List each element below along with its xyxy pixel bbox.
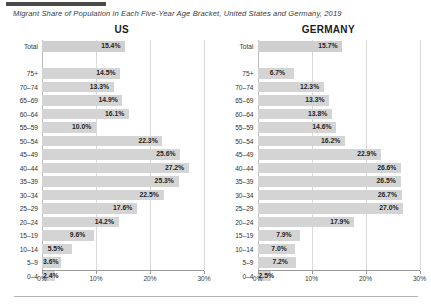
- bar-value-label: 25.3%: [155, 176, 174, 187]
- bar-row: 5–93.6%: [0, 256, 216, 270]
- bar-zone: 14.6%: [258, 122, 420, 133]
- panel-title-germany: GERMANY: [216, 24, 431, 35]
- bar-zone: 22.9%: [258, 149, 420, 160]
- category-label: 75+: [0, 67, 38, 81]
- category-label: 70–74: [216, 81, 254, 95]
- bar-value-label: 26.5%: [377, 176, 396, 187]
- category-label: Total: [0, 40, 38, 54]
- bar-zone: 27.2%: [42, 163, 204, 174]
- bottom-rule-decoration: [14, 296, 418, 297]
- axis-tick-mark: [258, 271, 259, 274]
- bar-zone: 15.4%: [42, 41, 204, 52]
- category-label: 50–54: [0, 135, 38, 149]
- category-label: 5–9: [216, 256, 254, 270]
- bar-value-label: 3.6%: [43, 257, 59, 268]
- bar-zone: 7.2%: [258, 257, 420, 268]
- category-label: Total: [216, 40, 254, 54]
- bar-zone: 7.0%: [258, 244, 420, 255]
- axis-tick-mark: [420, 271, 421, 274]
- bar-row: 40–4427.2%: [0, 162, 216, 176]
- category-label: 45–49: [216, 148, 254, 162]
- bar-row: 15–197.9%: [216, 229, 431, 243]
- chart-page: Migrant Share of Population in Each Five…: [0, 0, 431, 306]
- bar-value-label: 10.0%: [72, 122, 91, 133]
- bar[interactable]: [42, 230, 94, 241]
- bar-row-spacer: [0, 54, 216, 68]
- bar-zone: 6.7%: [258, 68, 420, 79]
- bar-rows-us: Total15.4%75+14.5%70–7413.3%65–6914.9%60…: [0, 40, 216, 270]
- axis-tick-mark: [312, 271, 313, 274]
- bar-zone: 7.9%: [258, 230, 420, 241]
- bar-row: 40–4426.6%: [216, 162, 431, 176]
- bar-zone: 26.6%: [258, 163, 420, 174]
- bar-row: 5–97.2%: [216, 256, 431, 270]
- bar-value-label: 7.0%: [271, 244, 287, 255]
- category-label: 0–4: [0, 270, 38, 284]
- bar-value-label: 16.1%: [105, 109, 124, 120]
- category-label: 30–34: [0, 189, 38, 203]
- bar-value-label: 14.9%: [98, 95, 117, 106]
- category-label: 40–44: [216, 162, 254, 176]
- bar-value-label: 25.6%: [156, 149, 175, 160]
- bar-value-label: 7.2%: [272, 257, 288, 268]
- bar-row: 65–6914.9%: [0, 94, 216, 108]
- bar-row: 70–7413.3%: [0, 81, 216, 95]
- axis-tick-mark: [42, 271, 43, 274]
- bar-row-spacer: [216, 54, 431, 68]
- bar-zone: 9.6%: [42, 230, 204, 241]
- category-label: 30–34: [216, 189, 254, 203]
- bar-zone: 13.3%: [258, 95, 420, 106]
- axis-tick-mark: [366, 271, 367, 274]
- bar-zone: 22.3%: [42, 136, 204, 147]
- bar-zone: 25.3%: [42, 176, 204, 187]
- bar-row: 25–2927.0%: [216, 202, 431, 216]
- bar-zone: 10.0%: [42, 122, 204, 133]
- bar-row: 30–3426.7%: [216, 189, 431, 203]
- bar-row: 30–3422.5%: [0, 189, 216, 203]
- bar-zone: 26.5%: [258, 176, 420, 187]
- bar-value-label: 15.7%: [318, 41, 337, 52]
- bar-value-label: 12.3%: [300, 82, 319, 93]
- bar-value-label: 22.9%: [357, 149, 376, 160]
- bar-row: 45–4925.6%: [0, 148, 216, 162]
- chart-title: Migrant Share of Population in Each Five…: [13, 9, 423, 18]
- panel-title-us: US: [0, 24, 216, 35]
- bar-row: 15–199.6%: [0, 229, 216, 243]
- bar-value-label: 6.7%: [270, 68, 286, 79]
- panel-us: US Total15.4%75+14.5%70–7413.3%65–6914.9…: [0, 24, 216, 294]
- category-label: 35–39: [0, 175, 38, 189]
- bar-zone: 27.0%: [258, 203, 420, 214]
- bar-row: 25–2917.6%: [0, 202, 216, 216]
- bar-zone: 16.2%: [258, 136, 420, 147]
- bar-value-label: 26.7%: [378, 190, 397, 201]
- bar-row: 10–147.0%: [216, 243, 431, 257]
- bar-zone: 22.5%: [42, 190, 204, 201]
- bar-value-label: 17.6%: [113, 203, 132, 214]
- bar-value-label: 22.5%: [140, 190, 159, 201]
- bar-row: 50–5416.2%: [216, 135, 431, 149]
- bar-row: 60–6416.1%: [0, 108, 216, 122]
- category-label: 70–74: [0, 81, 38, 95]
- bar-row: 10–145.5%: [0, 243, 216, 257]
- axis-tick-label: 20%: [359, 275, 372, 282]
- bar-zone: 25.6%: [42, 149, 204, 160]
- axis-tick-label: 30%: [197, 275, 210, 282]
- category-label: 55–59: [0, 121, 38, 135]
- bar-value-label: 27.0%: [379, 203, 398, 214]
- bar-zone: 15.7%: [258, 41, 420, 52]
- bar-zone: 13.3%: [42, 82, 204, 93]
- category-label: 25–29: [0, 202, 38, 216]
- bar-zone: 17.6%: [42, 203, 204, 214]
- axis-tick-mark: [150, 271, 151, 274]
- category-label: 15–19: [216, 229, 254, 243]
- bar-value-label: 13.8%: [308, 109, 327, 120]
- bar-row: 70–7412.3%: [216, 81, 431, 95]
- category-label: 50–54: [216, 135, 254, 149]
- bar-zone: 13.8%: [258, 109, 420, 120]
- axis-tick-label: 10%: [305, 275, 318, 282]
- bar-value-label: 14.5%: [96, 68, 115, 79]
- category-label: 10–14: [0, 243, 38, 257]
- bar-value-label: 9.6%: [70, 230, 86, 241]
- bar-row: 45–4922.9%: [216, 148, 431, 162]
- category-label: 75+: [216, 67, 254, 81]
